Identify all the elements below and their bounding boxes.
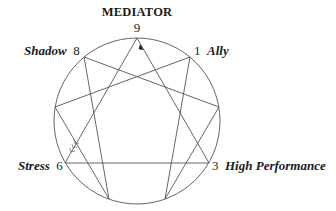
- point-6-name: Stress: [18, 158, 50, 173]
- enneagram-circle: [54, 38, 220, 204]
- line-2-8: [84, 57, 219, 107]
- label-point-1: 1 Ally: [194, 44, 229, 57]
- label-point-9: 9: [0, 21, 274, 34]
- point-3-name: High Performance: [225, 158, 326, 173]
- point-8-name: Shadow: [24, 43, 67, 58]
- triangle-lines: [65, 38, 209, 163]
- label-point-3: 3 High Performance: [212, 159, 326, 172]
- label-point-6: Stress 6: [18, 159, 63, 172]
- label-point-8: Shadow 8: [24, 44, 80, 57]
- title-mediator: MEDIATOR: [0, 6, 274, 19]
- line-7-1: [55, 57, 190, 107]
- point-8-number: 8: [73, 43, 80, 58]
- point-1-number: 1: [194, 43, 201, 58]
- point-1-name: Ally: [207, 43, 229, 58]
- point-3-number: 3: [212, 158, 219, 173]
- point-9-number: 9: [134, 20, 141, 35]
- hexad-lines: [55, 57, 219, 199]
- point-6-number: 6: [56, 158, 63, 173]
